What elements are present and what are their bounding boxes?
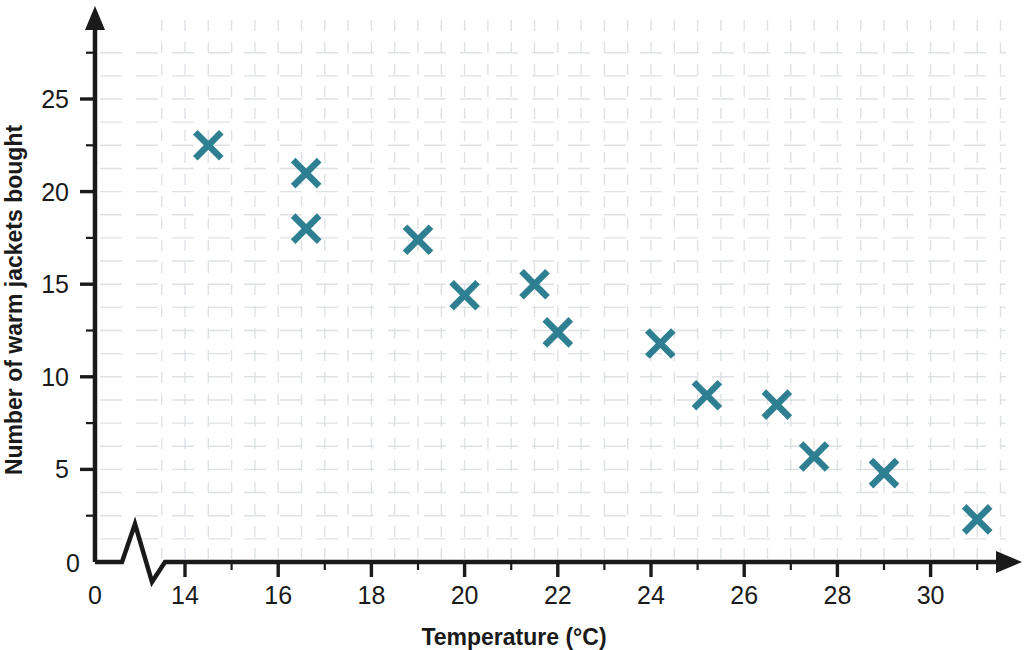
axes-group [85,6,1022,582]
x-tick-label: 28 [823,581,851,609]
y-tick-label: 25 [41,85,69,113]
data-points [195,132,990,532]
x-tick-label: 18 [357,581,385,609]
y-axis-title: Number of warm jackets bought [1,125,27,476]
x-tick-label: 16 [264,581,292,609]
x-tick-label: 20 [451,581,479,609]
gridlines [100,20,1006,562]
data-point-marker [293,216,319,242]
x-tick-label: 22 [544,581,572,609]
data-point-marker [293,160,319,186]
x-tick-label: 30 [917,581,945,609]
chart-svg: 14161820222426283000510152025 Temperatur… [0,0,1029,650]
x-tick-label: 26 [730,581,758,609]
y-tick-label: 5 [55,455,69,483]
x-axis-title: Temperature (°C) [421,624,606,650]
y-tick-label: 20 [41,178,69,206]
tick-labels: 14161820222426283000510152025 [41,85,944,609]
x-tick-label: 24 [637,581,665,609]
x-tick-label: 14 [171,581,199,609]
x-origin-label: 0 [88,581,102,609]
data-point-marker [647,330,673,356]
tick-marks [80,53,977,577]
y-tick-label: 10 [41,363,69,391]
y-origin-label: 0 [66,549,80,577]
data-point-marker [545,319,571,345]
scatter-chart: 14161820222426283000510152025 Temperatur… [0,0,1029,650]
y-tick-label: 15 [41,270,69,298]
